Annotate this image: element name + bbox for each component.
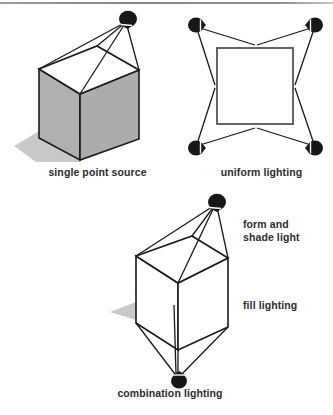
lighting-diagram-figure: single point source uniform lighting com… (0, 0, 333, 415)
lamp-icon-uniform-top-right (305, 18, 323, 33)
diagram-canvas (0, 0, 333, 415)
panel-combination-lighting (110, 194, 228, 389)
label-form-and-shade-light: form and shade light (243, 218, 300, 243)
panel-single-point-source (14, 11, 139, 162)
subject-square-uniform (217, 48, 293, 124)
label-fill-lighting: fill lighting (243, 299, 297, 312)
label-form-and-shade-light-line1: form and (243, 218, 300, 231)
caption-single-point-source: single point source (0, 166, 195, 179)
lamp-icon-combination-top (208, 194, 226, 212)
lamp-icon-uniform-bottom-right (305, 141, 323, 156)
panel-uniform-lighting (188, 18, 323, 156)
lamp-icon-uniform-top-left (188, 18, 206, 33)
caption-uniform-lighting: uniform lighting (190, 166, 333, 179)
caption-combination-lighting: combination lighting (50, 387, 290, 400)
lamp-icon-uniform-bottom-left (188, 141, 206, 156)
lamp-icon-combination-bottom (171, 371, 187, 388)
label-form-and-shade-light-line2: shade light (243, 231, 300, 244)
